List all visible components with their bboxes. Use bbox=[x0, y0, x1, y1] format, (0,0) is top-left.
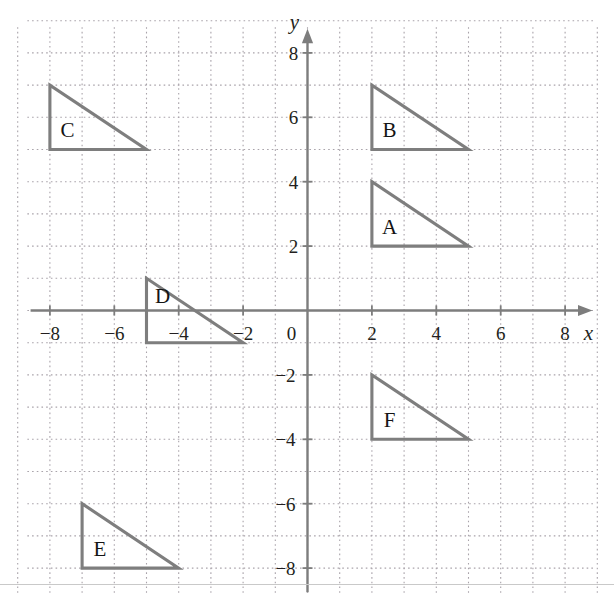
triangle-label-f: F bbox=[384, 409, 396, 430]
y-tick-label: 8 bbox=[289, 43, 299, 62]
triangle-label-c: C bbox=[61, 120, 75, 141]
axis-lines bbox=[31, 29, 593, 593]
x-axis-arrowhead-icon bbox=[578, 305, 592, 316]
x-tick-label: −4 bbox=[169, 323, 189, 342]
x-tick-label: −6 bbox=[104, 323, 124, 342]
coordinate-grid-figure: −8−6−4−224688642−2−4−6−80xyABCDEF bbox=[0, 0, 614, 593]
page-edge-rule bbox=[0, 584, 614, 585]
x-tick-label: −8 bbox=[40, 323, 60, 342]
y-tick-label: −4 bbox=[275, 430, 295, 449]
x-axis-name: x bbox=[584, 322, 593, 343]
y-tick-label: 2 bbox=[289, 237, 299, 256]
triangle-label-b: B bbox=[383, 120, 397, 141]
plot-canvas bbox=[0, 0, 614, 593]
y-tick-label: −2 bbox=[275, 365, 295, 384]
triangle-label-e: E bbox=[93, 538, 106, 559]
y-axis-name: y bbox=[290, 11, 299, 32]
x-tick-label: 6 bbox=[496, 323, 506, 342]
y-tick-label: 6 bbox=[289, 108, 299, 127]
triangle-label-d: D bbox=[155, 286, 170, 307]
origin-label: 0 bbox=[287, 323, 297, 342]
x-tick-label: 2 bbox=[367, 323, 377, 342]
x-tick-label: 8 bbox=[560, 323, 570, 342]
y-tick-label: −8 bbox=[275, 559, 295, 578]
y-tick-label: −6 bbox=[275, 494, 295, 513]
y-axis-arrowhead-icon bbox=[302, 29, 313, 43]
x-tick-label: −2 bbox=[233, 323, 253, 342]
x-tick-label: 4 bbox=[432, 323, 442, 342]
y-tick-label: 4 bbox=[289, 172, 299, 191]
triangle-label-a: A bbox=[382, 216, 397, 237]
